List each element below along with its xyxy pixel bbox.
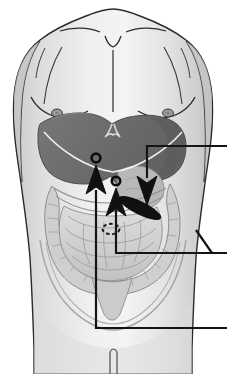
anatomy-figure: Anterior abdominal anatomy with organ la… <box>0 0 227 374</box>
nipple-left-center <box>55 112 58 114</box>
anatomy-illustration <box>0 0 227 374</box>
nipple-right-center <box>166 112 169 114</box>
leader-line-middle-diagonal <box>196 230 212 253</box>
